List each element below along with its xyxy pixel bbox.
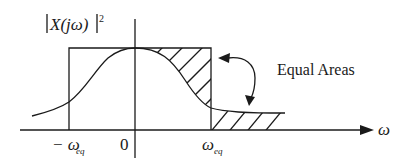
svg-text:2: 2 — [99, 13, 104, 24]
svg-text:eq: eq — [76, 146, 85, 156]
tick-label-zero: 0 — [120, 135, 129, 154]
equal-areas-label: Equal Areas — [277, 61, 355, 79]
svg-text:ω: ω — [202, 135, 214, 154]
spectrum-curve — [32, 48, 285, 116]
x-axis-label: ω — [378, 120, 390, 139]
axis-arrow-icon — [360, 125, 374, 135]
tick-label-pos-omega-eq: ω eq — [202, 135, 223, 156]
equal-areas-arrow-icon — [218, 53, 255, 106]
y-axis-label: X(jω) 2 — [47, 13, 104, 34]
tick-label-neg-omega-eq: − ω eq — [52, 135, 85, 156]
frequency-axis — [20, 125, 374, 135]
equivalent-bandwidth-diagram: Equal Areas X(jω) 2 − ω eq 0 ω eq ω — [0, 0, 404, 166]
svg-text:eq: eq — [214, 146, 223, 156]
svg-text:X(jω): X(jω) — [49, 15, 89, 34]
